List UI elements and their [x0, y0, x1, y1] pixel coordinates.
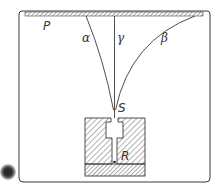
- alpha-ray-path: [86, 16, 114, 110]
- label-alpha: α: [82, 32, 90, 44]
- lead-base: [85, 164, 145, 176]
- ink-blob: [0, 164, 16, 180]
- label-source: R: [121, 150, 129, 162]
- radiation-deflection-diagram: [0, 0, 222, 186]
- photographic-plate: [25, 12, 203, 16]
- radioactive-source: [113, 161, 116, 164]
- label-beta: β: [161, 32, 168, 44]
- label-gamma: γ: [117, 32, 124, 44]
- label-slit: S: [118, 102, 126, 114]
- beta-ray-path: [116, 16, 196, 110]
- lead-block: [85, 118, 112, 164]
- label-plate: P: [43, 20, 50, 32]
